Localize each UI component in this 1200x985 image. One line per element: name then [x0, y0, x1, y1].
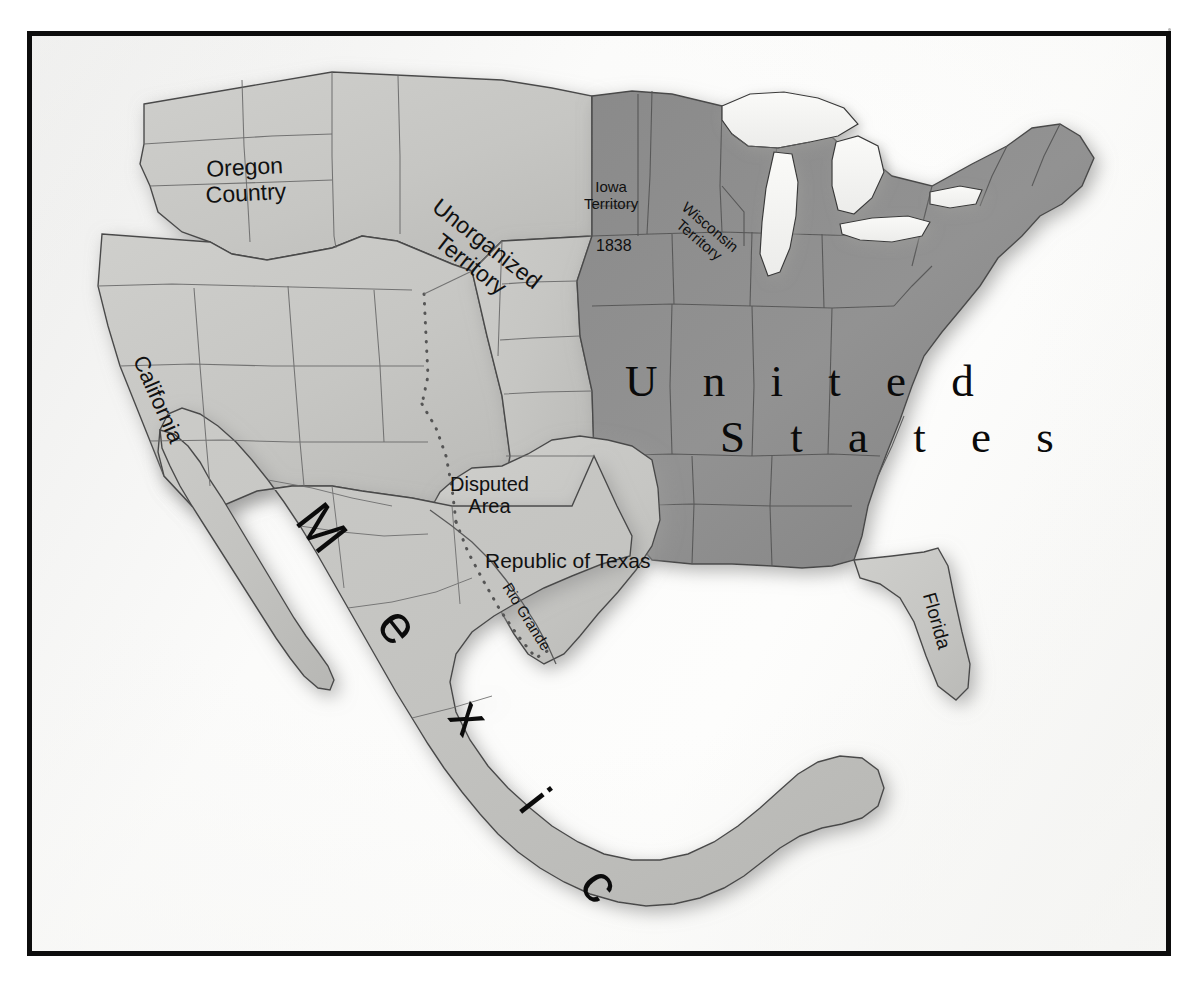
map-frame: Oregon Country California Unorganized Te…	[27, 31, 1171, 956]
page-speck	[1168, 28, 1171, 31]
map-illustration	[32, 36, 1166, 951]
florida-shape	[854, 548, 970, 700]
map-page: Oregon Country California Unorganized Te…	[0, 0, 1200, 985]
lake-superior	[722, 92, 858, 148]
region-florida-territory	[854, 548, 970, 700]
